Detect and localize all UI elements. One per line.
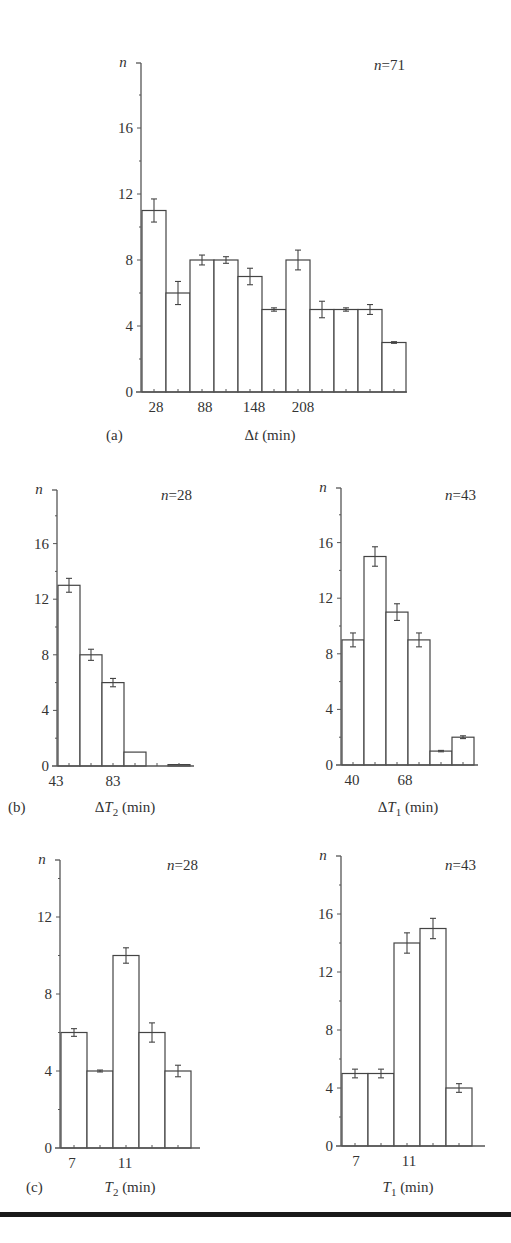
y-tick-label: 12	[37, 909, 52, 925]
histogram-bar	[382, 343, 406, 393]
sample-size-label: n=28	[161, 487, 192, 503]
histogram-bar	[334, 310, 358, 393]
x-tick-label: 11	[118, 1155, 132, 1171]
histogram-bar	[238, 277, 262, 393]
y-tick-label: 12	[118, 186, 133, 202]
panel-label: (b)	[8, 799, 26, 816]
histogram-bar	[364, 557, 386, 766]
x-tick-label: 83	[106, 773, 121, 789]
histogram-bar	[368, 1074, 394, 1147]
y-tick-label: 0	[42, 758, 50, 774]
y-tick-label: 16	[318, 906, 334, 922]
histogram-bar	[310, 310, 334, 393]
histogram-bar	[61, 1033, 87, 1149]
histogram-bar	[286, 260, 310, 392]
x-tick-label: 7	[352, 1153, 360, 1169]
histogram-panel-a: 04812162888148208nn=71Δt (min)(a)	[106, 54, 407, 444]
y-tick-label: 4	[42, 702, 50, 718]
histogram-bar	[165, 1071, 191, 1148]
histogram-bar	[142, 211, 166, 393]
y-tick-label: 8	[326, 1022, 334, 1038]
y-tick-label: 12	[318, 964, 333, 980]
x-axis-label: T2 (min)	[105, 1179, 156, 1198]
sample-size-label: n=71	[374, 57, 405, 73]
y-tick-label: 4	[326, 1080, 334, 1096]
histogram-bar	[139, 1033, 165, 1149]
panel-label: (a)	[106, 427, 123, 444]
histogram-panel-c-right: 0481216711nn=43T1 (min)	[318, 847, 485, 1198]
y-tick-label: 16	[318, 535, 334, 551]
x-axis-label: ΔT1 (min)	[378, 799, 439, 818]
histogram-bar	[214, 260, 238, 392]
histogram-bar	[80, 655, 102, 766]
histogram-bar	[342, 640, 364, 765]
y-axis-label: n	[38, 851, 46, 867]
histogram-bar	[394, 943, 420, 1146]
y-axis-label: n	[119, 54, 127, 70]
x-axis-label: T1 (min)	[383, 1179, 434, 1198]
histogram-bar	[190, 260, 214, 392]
y-tick-label: 4	[45, 1063, 53, 1079]
histogram-panel-b-left: 04812164383nn=28ΔT2 (min)(b)	[8, 481, 194, 818]
x-tick-label: 43	[49, 773, 64, 789]
panel-label: (c)	[26, 1179, 43, 1196]
y-tick-label: 8	[126, 252, 134, 268]
histogram-panel-b-right: 04812164068nn=43ΔT1 (min)	[318, 479, 478, 818]
y-tick-label: 0	[326, 757, 334, 773]
y-tick-label: 8	[45, 986, 53, 1002]
histogram-panel-c-left: 04812711nn=28T2 (min)(c)	[26, 851, 200, 1198]
y-tick-label: 0	[45, 1140, 53, 1156]
histogram-bar	[113, 956, 139, 1149]
histogram-bar	[262, 310, 286, 393]
y-axis-label: n	[319, 847, 327, 863]
histogram-bar	[420, 929, 446, 1147]
histogram-bar	[408, 640, 430, 765]
y-tick-label: 8	[42, 647, 50, 663]
x-tick-label: 148	[243, 399, 266, 415]
x-tick-label: 11	[402, 1153, 416, 1169]
sample-size-label: n=43	[445, 857, 476, 873]
histogram-bar	[446, 1088, 472, 1146]
x-tick-label: 88	[198, 399, 213, 415]
histogram-bar	[58, 585, 80, 766]
histogram-bar	[166, 293, 190, 392]
x-tick-label: 40	[345, 772, 360, 788]
sample-size-label: n=28	[167, 857, 198, 873]
x-tick-label: 68	[398, 772, 413, 788]
histogram-bar	[452, 737, 474, 765]
y-tick-label: 12	[318, 590, 333, 606]
y-tick-label: 0	[126, 384, 134, 400]
x-axis-label: ΔT2 (min)	[95, 799, 156, 818]
caption-bar	[0, 1212, 511, 1217]
y-tick-label: 4	[326, 701, 334, 717]
y-axis-label: n	[35, 481, 43, 497]
x-tick-label: 7	[68, 1155, 76, 1171]
y-tick-label: 4	[126, 318, 134, 334]
histogram-bar	[342, 1074, 368, 1147]
histogram-bar	[358, 310, 382, 393]
histogram-bar	[102, 683, 124, 766]
histogram-figure: 04812162888148208nn=71Δt (min)(a)0481216…	[0, 0, 511, 1243]
x-tick-label: 208	[292, 399, 315, 415]
y-tick-label: 8	[326, 646, 334, 662]
x-axis-label: Δt (min)	[245, 427, 296, 444]
y-tick-label: 16	[118, 120, 134, 136]
y-tick-label: 12	[34, 591, 49, 607]
sample-size-label: n=43	[445, 487, 476, 503]
y-tick-label: 0	[326, 1138, 334, 1154]
x-tick-label: 28	[149, 399, 164, 415]
histogram-bar	[386, 612, 408, 765]
y-tick-label: 16	[34, 536, 50, 552]
y-axis-label: n	[319, 479, 327, 495]
histogram-bar	[87, 1071, 113, 1148]
